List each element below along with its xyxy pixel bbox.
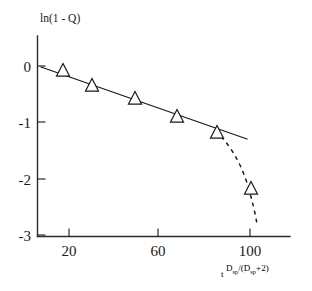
exp-tail: +2) [256,263,269,273]
x-axis-title-base: t [221,269,224,279]
data-point-marker [57,64,70,77]
x-tick-marks [69,229,250,237]
deviation-dashed-curve [215,131,257,224]
y-tick-labels: 0 -1 -2 -3 [19,59,32,244]
x-axis-title-exponent: Dsp/(Dsp+2) [226,263,269,275]
x-tick-labels: 20 60 100 [62,243,262,259]
data-point-marker [245,182,258,195]
x-axis-title: t Dsp/(Dsp+2) [221,263,269,279]
x-tick-label-60: 60 [151,243,166,259]
y-tick-marks [38,66,46,235]
y-axis-title: ln(1 - Q) [40,12,80,25]
chart-figure: 0 -1 -2 -3 20 60 100 ln(1 - Q) t Dsp/(Ds… [0,0,312,291]
y-tick-label-m3: -3 [19,228,32,244]
x-tick-label-100: 100 [239,243,262,259]
axes-group [38,36,291,237]
data-point-marker [86,79,99,92]
y-tick-label-m2: -2 [19,172,32,188]
y-tick-label-m1: -1 [19,115,32,131]
x-tick-label-20: 20 [62,243,77,259]
y-tick-label-0: 0 [24,59,32,75]
plot-canvas: 0 -1 -2 -3 20 60 100 ln(1 - Q) t Dsp/(Ds… [0,0,312,291]
